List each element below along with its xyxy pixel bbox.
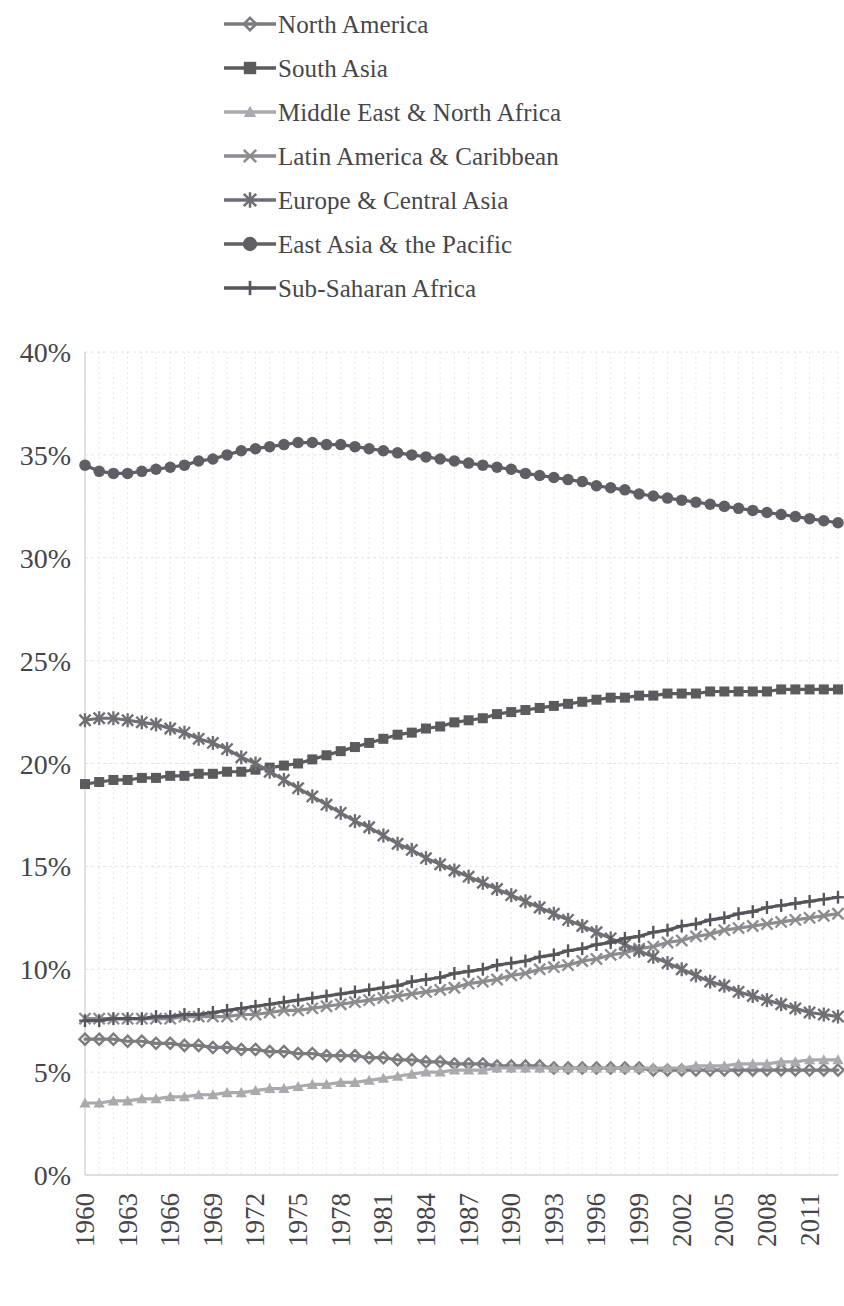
legend-marker-diamond-icon xyxy=(222,13,278,35)
x-tick-label: 1987 xyxy=(454,1193,484,1247)
legend-marker-triangle-icon xyxy=(222,101,278,123)
x-tick-label: 2011 xyxy=(795,1193,825,1246)
y-tick-label: 30% xyxy=(20,543,71,574)
legend-item[interactable]: Europe & Central Asia xyxy=(222,178,509,222)
chart-page: North AmericaSouth AsiaMiddle East & Nor… xyxy=(0,0,844,1306)
y-tick-label: 20% xyxy=(20,749,71,780)
legend-item[interactable]: Latin America & Caribbean xyxy=(222,134,559,178)
x-tick-label: 1975 xyxy=(283,1193,313,1247)
legend-label: Europe & Central Asia xyxy=(278,188,509,213)
y-tick-label: 40% xyxy=(20,337,71,368)
y-tick-label: 5% xyxy=(34,1057,71,1088)
x-tick-label: 1993 xyxy=(539,1193,569,1247)
x-tick-label: 2005 xyxy=(709,1193,739,1247)
legend-item[interactable]: North America xyxy=(222,2,429,46)
legend-label: North America xyxy=(278,12,429,37)
x-tick-label: 1981 xyxy=(368,1193,398,1247)
y-tick-label: 25% xyxy=(20,646,71,677)
x-tick-label: 1969 xyxy=(198,1193,228,1247)
legend-label: Sub-Saharan Africa xyxy=(278,276,476,301)
y-tick-label: 10% xyxy=(20,954,71,985)
legend-marker-asterisk-icon xyxy=(222,189,278,211)
legend-item[interactable]: Middle East & North Africa xyxy=(222,90,561,134)
x-tick-label: 1990 xyxy=(496,1193,526,1247)
x-tick-label: 1966 xyxy=(155,1193,185,1247)
x-tick-label: 2002 xyxy=(667,1193,697,1247)
legend-marker-circle-icon xyxy=(222,233,278,255)
y-tick-labels: 0%5%10%15%20%25%30%35%40% xyxy=(20,337,71,1191)
legend-marker-square-icon xyxy=(222,57,278,79)
x-tick-label: 1984 xyxy=(411,1193,441,1248)
legend-label: East Asia & the Pacific xyxy=(278,232,512,257)
x-tick-label: 1999 xyxy=(624,1193,654,1247)
legend-label: Middle East & North Africa xyxy=(278,100,561,125)
x-tick-label: 1963 xyxy=(113,1193,143,1247)
y-tick-label: 35% xyxy=(20,440,71,471)
x-tick-label: 2008 xyxy=(752,1193,782,1247)
legend-marker-x-icon xyxy=(222,145,278,167)
y-tick-label: 0% xyxy=(34,1160,71,1191)
x-tick-label: 1960 xyxy=(70,1193,100,1247)
chart-legend: North AmericaSouth AsiaMiddle East & Nor… xyxy=(0,0,844,330)
x-tick-labels: 1960196319661969197219751978198119841987… xyxy=(70,1193,825,1248)
x-tick-label: 1972 xyxy=(240,1193,270,1247)
legend-label: South Asia xyxy=(278,56,388,81)
legend-item[interactable]: South Asia xyxy=(222,46,388,90)
x-tick-label: 1978 xyxy=(326,1193,356,1247)
chart-svg: 0%5%10%15%20%25%30%35%40%196019631966196… xyxy=(0,330,844,1306)
legend-marker-plus-icon xyxy=(222,277,278,299)
line-chart: 0%5%10%15%20%25%30%35%40%196019631966196… xyxy=(0,330,844,1306)
legend-item[interactable]: Sub-Saharan Africa xyxy=(222,266,476,310)
legend-item[interactable]: East Asia & the Pacific xyxy=(222,222,512,266)
y-tick-label: 15% xyxy=(20,851,71,882)
x-tick-label: 1996 xyxy=(581,1193,611,1247)
legend-label: Latin America & Caribbean xyxy=(278,144,559,169)
